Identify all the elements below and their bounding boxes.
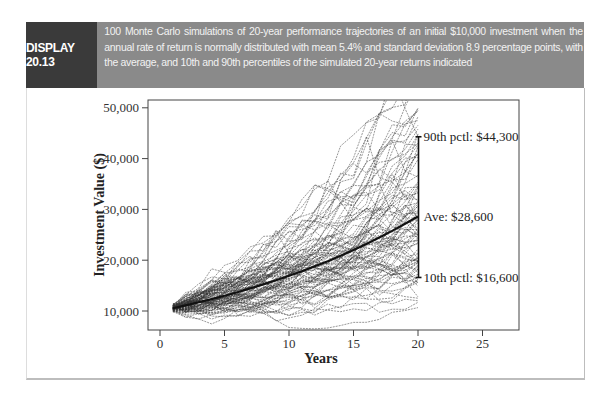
x-axis: 0510152025	[157, 330, 489, 351]
x-tick-label: 15	[347, 336, 360, 351]
x-tick-label: 10	[283, 336, 296, 351]
x-tick-label: 20	[412, 336, 425, 351]
simulation-path	[173, 155, 418, 308]
simulation-paths	[173, 46, 418, 329]
simulation-path	[173, 140, 418, 305]
simulation-path	[173, 117, 418, 310]
x-tick-label: 5	[221, 336, 228, 351]
annotation-10th-percentile: 10th pctl: $16,600	[424, 270, 519, 285]
x-axis-title: Years	[304, 351, 338, 366]
simulation-path	[173, 143, 418, 307]
annotation-90th-percentile: 90th pctl: $44,300	[424, 129, 519, 144]
y-tick-label: 10,000	[103, 304, 139, 319]
y-tick-label: 30,000	[103, 202, 139, 217]
annotation-average: Ave: $28,600	[424, 209, 494, 224]
y-tick-label: 50,000	[103, 100, 139, 115]
simulation-path	[173, 135, 418, 307]
y-axis: 10,00020,00030,00040,00050,000	[103, 100, 148, 318]
x-tick-label: 0	[157, 336, 164, 351]
percentile-bar: 90th pctl: $44,300Ave: $28,60010th pctl:…	[416, 129, 519, 285]
simulation-path	[173, 303, 418, 329]
x-tick-label: 25	[476, 336, 489, 351]
monte-carlo-chart: 10,00020,00030,00040,00050,000 051015202…	[0, 0, 604, 399]
y-tick-label: 40,000	[103, 151, 139, 166]
y-axis-title: Investment Value ($)	[92, 153, 108, 277]
y-tick-label: 20,000	[103, 253, 139, 268]
